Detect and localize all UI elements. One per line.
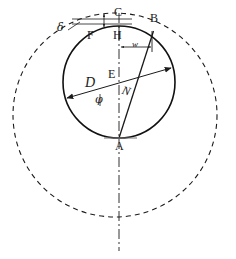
label-offset-w: w — [132, 40, 138, 49]
label-point-h: H — [113, 29, 122, 41]
label-phi: φ — [95, 94, 103, 105]
geometry-figure: C B F H E A D w δ φ N — [0, 0, 236, 259]
outer-dashed-circle — [13, 13, 217, 217]
label-point-a: A — [115, 140, 124, 152]
label-diameter-d: D — [85, 76, 95, 90]
label-point-e: E — [108, 68, 115, 80]
label-point-f: F — [87, 29, 94, 41]
label-point-c: C — [114, 6, 122, 18]
label-delta: δ — [57, 22, 64, 33]
label-point-b: B — [150, 12, 158, 24]
